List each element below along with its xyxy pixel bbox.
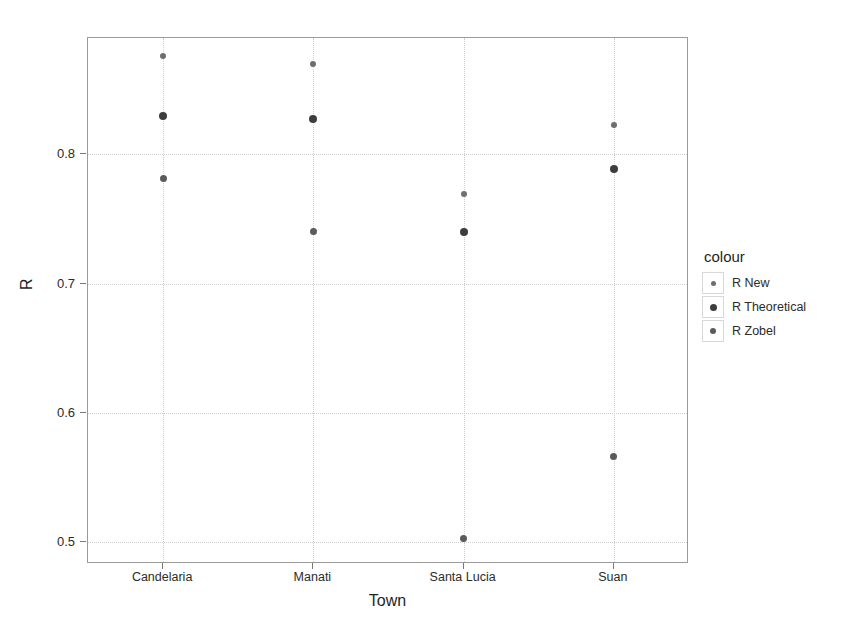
- data-point: [610, 165, 618, 173]
- data-point: [310, 61, 316, 67]
- legend-key-swatch: [702, 272, 724, 294]
- y-axis-tick-labels: 0.50.60.70.8: [0, 37, 75, 563]
- data-point: [160, 175, 167, 182]
- x-tick-label: Candelaria: [132, 570, 192, 584]
- y-tick-mark: [80, 412, 86, 413]
- gridline-horizontal: [88, 413, 687, 414]
- legend-title: colour: [704, 248, 842, 265]
- legend-dot-icon: [710, 304, 717, 311]
- gridline-horizontal: [88, 542, 687, 543]
- gridline-vertical: [614, 38, 615, 562]
- x-axis-title: Town: [87, 592, 688, 610]
- legend-item[interactable]: R Zobel: [702, 319, 842, 343]
- legend-item[interactable]: R Theoretical: [702, 295, 842, 319]
- data-point: [461, 191, 467, 197]
- x-axis-tick-marks: [87, 563, 688, 570]
- legend-item[interactable]: R New: [702, 271, 842, 295]
- gridline-horizontal: [88, 154, 687, 155]
- legend-item-label: R Theoretical: [732, 300, 806, 314]
- x-tick-mark: [162, 563, 163, 569]
- legend-dot-icon: [711, 281, 716, 286]
- legend: colour R NewR TheoreticalR Zobel: [702, 248, 842, 343]
- scatter-plot-figure: 0.50.60.70.8 CandelariaManatiSanta Lucia…: [0, 0, 852, 636]
- data-point: [460, 535, 467, 542]
- legend-key-swatch: [702, 296, 724, 318]
- y-tick-mark: [80, 541, 86, 542]
- plot-panel: [87, 37, 688, 563]
- data-point: [310, 228, 317, 235]
- x-axis-tick-labels: CandelariaManatiSanta LuciaSuan: [87, 570, 688, 590]
- legend-key-swatch: [702, 320, 724, 342]
- x-tick-label: Manati: [294, 570, 332, 584]
- data-point: [610, 453, 617, 460]
- data-point: [460, 228, 468, 236]
- y-tick-label: 0.7: [57, 275, 75, 290]
- x-tick-label: Santa Lucia: [430, 570, 496, 584]
- y-tick-label: 0.6: [57, 404, 75, 419]
- legend-item-label: R New: [732, 276, 770, 290]
- gridline-horizontal: [88, 284, 687, 285]
- x-tick-label: Suan: [598, 570, 627, 584]
- data-point: [611, 122, 617, 128]
- x-tick-mark: [463, 563, 464, 569]
- data-point: [159, 112, 167, 120]
- data-point: [160, 53, 166, 59]
- y-tick-mark: [80, 153, 86, 154]
- legend-item-label: R Zobel: [732, 324, 776, 338]
- legend-entries: R NewR TheoreticalR Zobel: [702, 271, 842, 343]
- data-point: [309, 115, 317, 123]
- y-tick-mark: [80, 283, 86, 284]
- legend-dot-icon: [710, 328, 716, 334]
- x-tick-mark: [613, 563, 614, 569]
- gridline-vertical: [464, 38, 465, 562]
- y-tick-label: 0.5: [57, 534, 75, 549]
- y-tick-label: 0.8: [57, 146, 75, 161]
- x-tick-mark: [312, 563, 313, 569]
- y-axis-title: R: [18, 278, 36, 290]
